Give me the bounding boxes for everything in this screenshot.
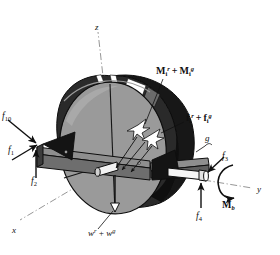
internal-force-label: fir + fig bbox=[186, 113, 212, 124]
gravity-label-g: g bbox=[205, 134, 210, 143]
axis-label-y: y bbox=[257, 185, 261, 194]
shaft-end-cap bbox=[204, 171, 209, 181]
force-label-f2: f2 bbox=[31, 177, 37, 187]
internal-moment-label: Mir + Mig bbox=[156, 66, 194, 77]
force-label-f4: f4 bbox=[196, 212, 202, 222]
hub-end-cap bbox=[95, 168, 100, 176]
moment-mb-arc bbox=[218, 165, 234, 198]
axis-label-x: x bbox=[12, 226, 16, 235]
leader-g-hook bbox=[205, 144, 212, 146]
beam-bolt-1 bbox=[65, 151, 68, 154]
arrow-f1 bbox=[12, 145, 37, 160]
axis-label-z: z bbox=[95, 23, 99, 32]
figure-canvas: z y x f10 f1 f2 f3 f4 Mb g Mir + Mig fir… bbox=[0, 0, 280, 255]
arrow-f10 bbox=[8, 120, 36, 143]
force-label-f3: f3 bbox=[222, 152, 228, 162]
force-label-f10: f10 bbox=[2, 112, 11, 122]
weight-label: wr + wg bbox=[88, 228, 115, 238]
rotor-free-body-diagram bbox=[0, 0, 280, 255]
leader-w bbox=[98, 211, 113, 229]
leader-g bbox=[196, 146, 205, 152]
beam-left-endcap bbox=[37, 144, 43, 167]
moment-label-mb: Mb bbox=[222, 200, 235, 211]
force-label-f1: f1 bbox=[8, 146, 14, 156]
